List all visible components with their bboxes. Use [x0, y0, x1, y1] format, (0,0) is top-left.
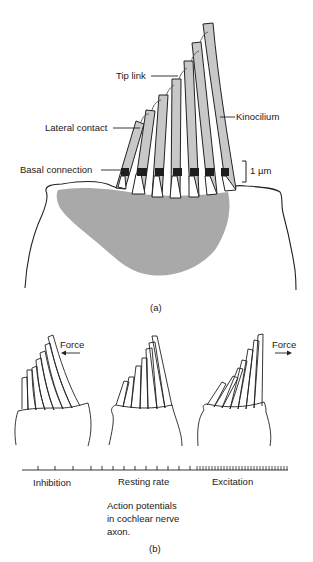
hair-cell-diagram: Tip link Lateral contact Kinocilium Basa… [0, 0, 313, 562]
bundle-excitation [207, 334, 263, 409]
caption-b: (b) [149, 543, 161, 554]
caption-a: (a) [150, 302, 162, 313]
label-tip-link: Tip link [116, 70, 146, 81]
spikes-resting [91, 466, 190, 470]
force-arrow-right-icon [275, 351, 292, 356]
hair-cell-inhibition: Force [15, 335, 91, 446]
cuticular-plate [57, 188, 230, 276]
panel-a: Tip link Lateral contact Kinocilium Basa… [20, 23, 296, 313]
hair-cell-resting [109, 336, 182, 446]
label-resting-rate: Resting rate [118, 476, 169, 487]
description-line-1: Action potentials [107, 500, 177, 511]
description-line-3: axon. [107, 526, 130, 537]
label-inhibition: Inhibition [33, 477, 71, 488]
label-scale-bar: 1 µm [250, 165, 271, 176]
force-label-left: Force [60, 339, 84, 350]
basal-connection-band [121, 168, 229, 176]
label-basal-connection: Basal connection [20, 164, 92, 175]
label-lateral-contact: Lateral contact [45, 122, 108, 133]
spikes-inhibition [38, 466, 73, 470]
force-arrow-left-icon [61, 351, 80, 356]
cell-body-outline [198, 402, 271, 446]
cell-body-outline [15, 403, 91, 446]
panel-b: Force [15, 334, 296, 554]
spike-train [22, 466, 288, 470]
cell-body-outline [109, 405, 182, 446]
label-kinocilium: Kinocilium [236, 111, 279, 122]
description-line-2: in cochlear nerve [107, 513, 179, 524]
spikes-excitation [197, 466, 287, 470]
scale-bracket [242, 161, 246, 182]
label-excitation: Excitation [212, 476, 253, 487]
hair-cell-excitation: Force [198, 334, 297, 446]
bundle-resting [116, 336, 172, 409]
force-label-right: Force [272, 339, 296, 350]
